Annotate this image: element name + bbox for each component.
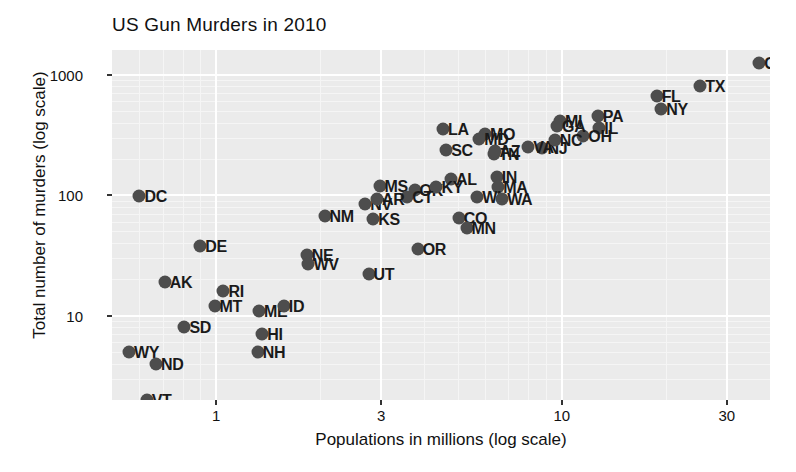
gridline-major-horizontal (112, 315, 770, 317)
plot-panel: CATXFLNYPAILOHMIMOLANJMDSCVANCGATNAZALIN… (112, 50, 770, 400)
gridline-major-vertical (215, 50, 217, 400)
gridline-minor-horizontal (112, 279, 770, 280)
chart-figure: US Gun Murders in 2010 CATXFLNYPAILOHMIM… (0, 0, 796, 472)
data-point-label: ID (289, 298, 304, 316)
x-tick-mark (561, 400, 563, 405)
y-tick-mark (107, 315, 112, 317)
data-point-label: MN (472, 220, 496, 238)
data-point-label: ND (161, 356, 184, 374)
data-point-label: UT (374, 266, 395, 284)
gridline-minor-horizontal (112, 214, 770, 215)
data-point-label: TX (705, 78, 725, 96)
gridline-minor-vertical (458, 50, 459, 400)
gridline-major-vertical (561, 50, 563, 400)
gridline-minor-horizontal (112, 231, 770, 232)
data-point-label: NY (666, 101, 688, 119)
gridline-minor-vertical (163, 50, 164, 400)
x-tick-mark (726, 400, 728, 405)
data-point-label: WA (507, 191, 532, 209)
gridline-minor-vertical (200, 50, 201, 400)
data-point-label: MT (220, 298, 243, 316)
data-point-label: KS (378, 211, 400, 229)
gridline-minor-vertical (546, 50, 547, 400)
y-tick-mark (107, 194, 112, 196)
y-tick-label: 10 (66, 307, 83, 324)
gridline-major-vertical (726, 50, 728, 400)
data-point-label: DC (144, 188, 167, 206)
y-tick-label: 1000 (50, 66, 83, 83)
gridline-minor-horizontal (112, 379, 770, 380)
gridline-major-horizontal (112, 74, 770, 76)
data-point-label: SC (451, 142, 473, 160)
y-tick-mark (107, 74, 112, 76)
gridline-minor-vertical (528, 50, 529, 400)
data-point-label: NM (330, 208, 354, 226)
data-point-label: NH (263, 344, 286, 362)
gridline-minor-vertical (508, 50, 509, 400)
data-point-label: GA (562, 118, 585, 136)
x-tick-mark (380, 400, 382, 405)
x-tick-label: 1 (212, 407, 220, 424)
gridline-minor-horizontal (112, 207, 770, 208)
data-point-label: HI (267, 326, 282, 344)
data-point-label: SD (189, 319, 211, 337)
x-tick-label: 10 (553, 407, 570, 424)
data-point-label: DE (205, 238, 227, 256)
gridline-minor-vertical (424, 50, 425, 400)
gridline-minor-vertical (183, 50, 184, 400)
data-point-label: WV (313, 256, 338, 274)
gridline-minor-horizontal (112, 364, 770, 365)
y-axis-label: Total number of murders (log scale) (30, 25, 50, 385)
page-title: US Gun Murders in 2010 (112, 14, 327, 36)
gridline-minor-horizontal (112, 138, 770, 139)
data-point-label: LA (448, 121, 469, 139)
x-tick-label: 3 (377, 407, 385, 424)
data-point-label: VT (152, 392, 172, 400)
data-point-label: KY (441, 179, 463, 197)
gridline-minor-horizontal (112, 222, 770, 223)
gridline-minor-horizontal (112, 352, 770, 353)
y-tick-label: 100 (58, 187, 83, 204)
gridline-minor-horizontal (112, 342, 770, 343)
x-tick-label: 30 (718, 407, 735, 424)
data-point-label: CA (764, 55, 770, 73)
data-point-label: OR (423, 241, 446, 259)
x-axis-label: Populations in millions (log scale) (112, 430, 770, 450)
data-point-label: AK (170, 274, 193, 292)
data-point-label: AZ (500, 143, 521, 161)
data-point-label: CT (412, 189, 433, 207)
gridline-minor-horizontal (112, 80, 770, 81)
data-point-label: OH (588, 128, 611, 146)
gridline-minor-vertical (320, 50, 321, 400)
x-tick-mark (215, 400, 217, 405)
data-point-label: AR (382, 191, 405, 209)
gridline-minor-horizontal (112, 201, 770, 202)
gridline-minor-horizontal (112, 159, 770, 160)
